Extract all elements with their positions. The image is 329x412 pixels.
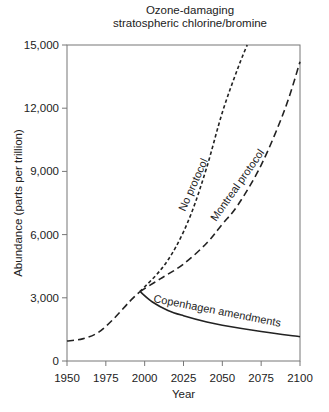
series-montreal-protocol [140, 62, 300, 292]
y-tick-label: 6,000 [30, 229, 59, 241]
x-tick-label: 2000 [132, 372, 158, 384]
x-tick-label: 2050 [210, 372, 236, 384]
label-no-protocol: No protocol [176, 157, 210, 213]
series-historical [67, 291, 140, 341]
y-tick-label: 0 [53, 355, 59, 367]
y-axis-label: Abundance (parts per trillion) [12, 129, 24, 277]
x-tick-label: 2100 [287, 372, 313, 384]
label-copenhagen-amendments: Copenhagen amendments [153, 292, 283, 329]
y-tick-label: 12,000 [24, 102, 59, 114]
x-tick-label: 2025 [171, 372, 197, 384]
x-axis-label: Year [172, 388, 195, 400]
x-tick-label: 2075 [248, 372, 274, 384]
y-tick-label: 9,000 [30, 165, 59, 177]
x-tick-label: 1950 [54, 372, 80, 384]
y-tick-label: 15,000 [24, 39, 59, 51]
line-chart: 03,0006,0009,00012,00015,000195019752000… [0, 0, 329, 412]
label-montreal-protocol: Montreal protocol [208, 147, 267, 224]
x-tick-label: 1975 [93, 372, 119, 384]
y-tick-label: 3,000 [30, 292, 59, 304]
